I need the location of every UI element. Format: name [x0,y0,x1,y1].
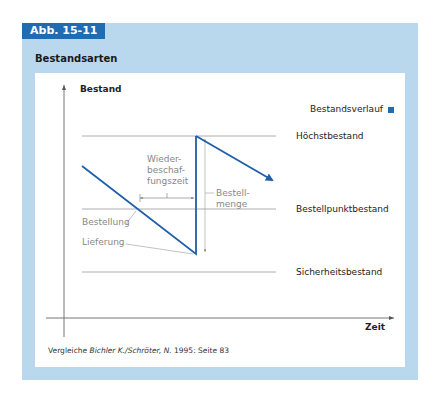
delivery-leader [126,244,193,254]
legend-label: Bestandsverlauf [310,104,383,114]
order-label: Bestellung [82,217,130,227]
delivery-label: Lieferung [82,237,125,247]
source-citation: Vergleiche Bichler K./Schröter, N. 1995:… [48,346,229,355]
legend-swatch [388,107,394,113]
y-axis-label: Bestand [80,84,122,94]
order-qty-label: Bestell- menge [216,188,250,210]
stock-series-arrow [196,136,272,180]
x-axis-label: Zeit [365,322,385,332]
max-stock-label: Höchstbestand [296,131,364,141]
safety-stock-label: Sicherheitsbestand [296,267,382,277]
lead-time-label: Wieder- beschaf- fungszeit [147,154,188,187]
reorder-point-label: Bestellpunktbestand [296,204,389,214]
legend: Bestandsverlauf [310,104,394,114]
